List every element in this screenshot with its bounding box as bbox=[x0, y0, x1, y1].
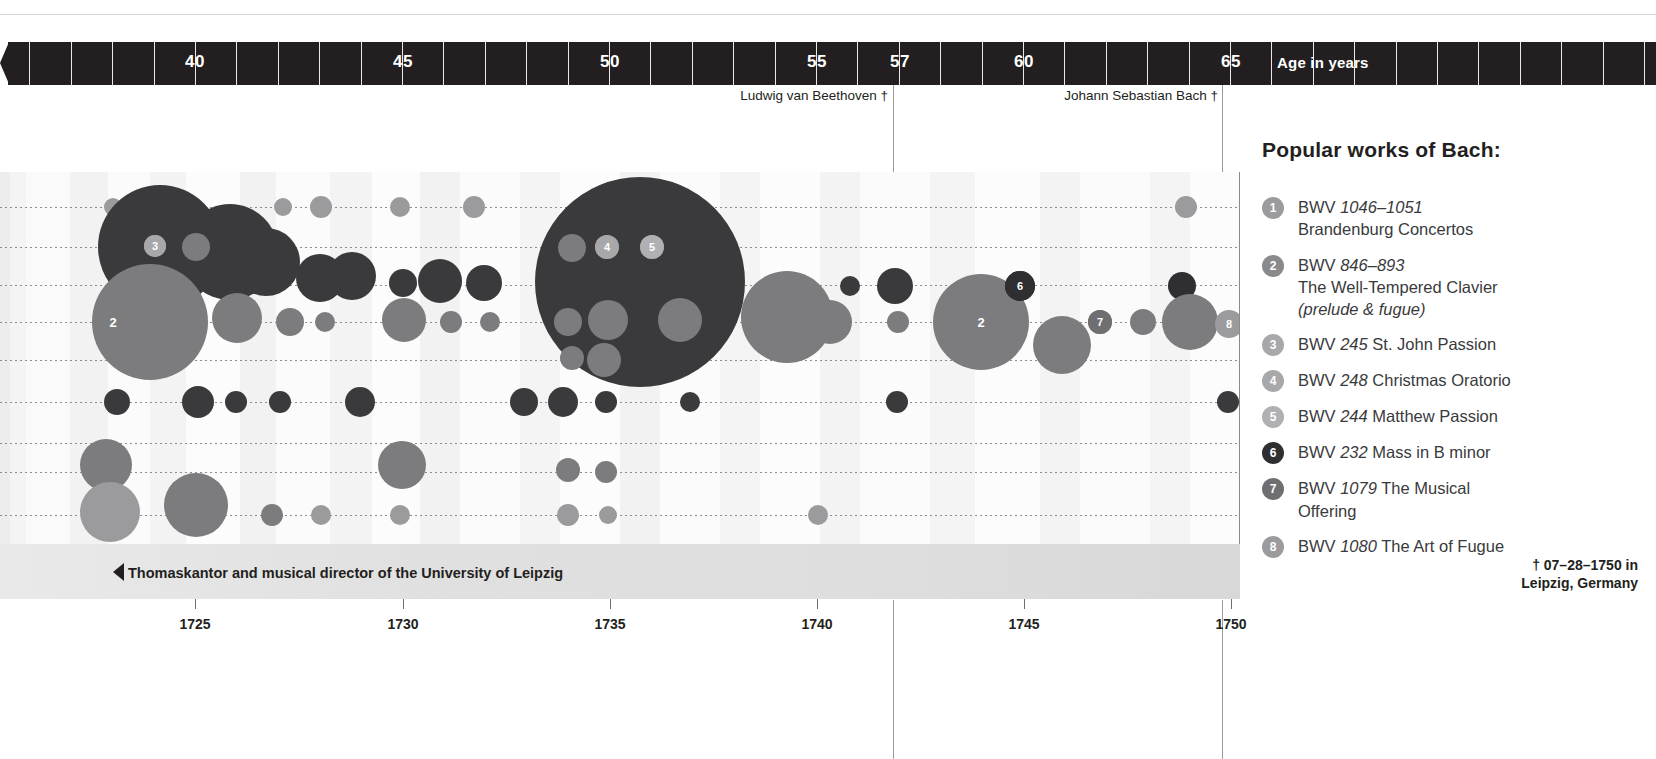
age-axis-tick bbox=[1271, 42, 1272, 85]
legend-item-text: BWV 244 Matthew Passion bbox=[1298, 405, 1498, 427]
work-bubble[interactable] bbox=[840, 276, 860, 296]
gridline bbox=[0, 443, 1240, 444]
plot-badge-5[interactable]: 5 bbox=[640, 235, 664, 259]
work-bubble[interactable] bbox=[808, 505, 828, 525]
work-bubble[interactable] bbox=[378, 441, 426, 489]
work-bubble[interactable] bbox=[560, 346, 584, 370]
legend-badge-4[interactable]: 4 bbox=[1262, 370, 1284, 392]
legend-item-2[interactable]: 2BWV 846–893The Well-Tempered Clavier(pr… bbox=[1262, 254, 1642, 321]
work-bubble[interactable] bbox=[599, 506, 617, 524]
legend-item-1[interactable]: 1BWV 1046–1051Brandenburg Concertos bbox=[1262, 196, 1642, 241]
plot-badge-3[interactable]: 3 bbox=[144, 235, 166, 257]
legend-badge-1[interactable]: 1 bbox=[1262, 197, 1284, 219]
year-axis-tick bbox=[403, 599, 404, 609]
plot-right-boundary bbox=[1239, 172, 1240, 600]
legend-item-text: BWV 248 Christmas Oratorio bbox=[1298, 369, 1511, 391]
legend-badge-3[interactable]: 3 bbox=[1262, 334, 1284, 356]
work-bubble[interactable] bbox=[558, 234, 586, 262]
age-axis-tick bbox=[29, 42, 30, 85]
work-bubble[interactable] bbox=[225, 391, 247, 413]
legend-item-3[interactable]: 3BWV 245 St. John Passion bbox=[1262, 333, 1642, 356]
work-bubble[interactable] bbox=[554, 308, 582, 336]
work-bubble[interactable] bbox=[658, 298, 702, 342]
work-bubble[interactable] bbox=[510, 388, 538, 416]
plot-badge-4[interactable]: 4 bbox=[595, 235, 619, 259]
work-bubble[interactable] bbox=[595, 391, 617, 413]
age-axis-tick bbox=[112, 42, 113, 85]
work-bubble[interactable] bbox=[466, 265, 502, 301]
work-bubble[interactable] bbox=[311, 505, 331, 525]
work-bubble[interactable] bbox=[345, 387, 375, 417]
age-axis-tick bbox=[568, 42, 569, 85]
bubble-inline-number: 2 bbox=[977, 315, 984, 330]
work-bubble[interactable] bbox=[182, 233, 210, 261]
age-axis-tick bbox=[278, 42, 279, 85]
work-bubble[interactable] bbox=[389, 269, 417, 297]
work-bubble[interactable] bbox=[1130, 309, 1156, 335]
work-bubble[interactable] bbox=[261, 504, 283, 526]
work-bubble[interactable] bbox=[557, 504, 579, 526]
age-axis-tick-label: 65 bbox=[1221, 52, 1241, 72]
career-band-label: Thomaskantor and musical director of the… bbox=[128, 565, 563, 581]
work-bubble[interactable] bbox=[1033, 316, 1091, 374]
plot-badge-8[interactable]: 8 bbox=[1215, 310, 1240, 338]
work-bubble[interactable] bbox=[595, 461, 617, 483]
work-bubble[interactable] bbox=[232, 228, 300, 296]
age-axis-tick bbox=[650, 42, 651, 85]
bubble-plot[interactable]: 22345678 bbox=[0, 172, 1240, 544]
plot-badge-7[interactable]: 7 bbox=[1088, 310, 1112, 334]
work-bubble[interactable] bbox=[274, 198, 292, 216]
work-bubble[interactable] bbox=[1217, 391, 1239, 413]
year-axis-tick bbox=[817, 599, 818, 609]
age-axis-tick bbox=[236, 42, 237, 85]
age-axis-tick bbox=[1147, 42, 1148, 85]
plot-badge-6[interactable]: 6 bbox=[1005, 271, 1035, 301]
legend-badge-7[interactable]: 7 bbox=[1262, 478, 1284, 500]
work-bubble[interactable] bbox=[556, 458, 580, 482]
age-axis-tick bbox=[485, 42, 486, 85]
work-bubble[interactable] bbox=[1162, 294, 1218, 350]
work-bubble[interactable] bbox=[328, 252, 376, 300]
legend-item-6[interactable]: 6BWV 232 Mass in B minor bbox=[1262, 441, 1642, 464]
work-bubble[interactable] bbox=[548, 387, 578, 417]
work-bubble[interactable] bbox=[80, 482, 140, 542]
legend-badge-8[interactable]: 8 bbox=[1262, 536, 1284, 558]
work-bubble[interactable] bbox=[877, 268, 913, 304]
work-bubble[interactable] bbox=[587, 343, 621, 377]
work-bubble[interactable] bbox=[440, 311, 462, 333]
work-bubble[interactable] bbox=[463, 196, 485, 218]
work-bubble[interactable] bbox=[104, 389, 130, 415]
year-axis-line bbox=[0, 599, 1240, 600]
legend-badge-2[interactable]: 2 bbox=[1262, 255, 1284, 277]
work-bubble[interactable] bbox=[212, 293, 262, 343]
work-bubble[interactable] bbox=[276, 308, 304, 336]
age-axis-tick-label: 57 bbox=[890, 52, 910, 72]
work-bubble[interactable] bbox=[315, 312, 335, 332]
legend-item-4[interactable]: 4BWV 248 Christmas Oratorio bbox=[1262, 369, 1642, 392]
work-bubble[interactable] bbox=[887, 311, 909, 333]
bubble-inline-number: 2 bbox=[109, 315, 116, 330]
work-bubble[interactable] bbox=[1175, 196, 1197, 218]
age-axis-tick bbox=[940, 42, 941, 85]
work-bubble[interactable] bbox=[310, 196, 332, 218]
work-bubble[interactable] bbox=[680, 392, 700, 412]
work-bubble[interactable] bbox=[390, 505, 410, 525]
work-bubble[interactable] bbox=[390, 197, 410, 217]
legend-badge-5[interactable]: 5 bbox=[1262, 406, 1284, 428]
age-axis-tick bbox=[1603, 42, 1604, 85]
work-bubble[interactable] bbox=[808, 300, 852, 344]
work-bubble[interactable] bbox=[269, 391, 291, 413]
work-bubble[interactable] bbox=[382, 298, 426, 342]
work-bubble[interactable] bbox=[480, 312, 500, 332]
work-bubble[interactable] bbox=[886, 391, 908, 413]
work-bubble[interactable] bbox=[164, 473, 228, 537]
legend-item-7[interactable]: 7BWV 1079 The MusicalOffering bbox=[1262, 477, 1642, 522]
legend-item-text: BWV 232 Mass in B minor bbox=[1298, 441, 1491, 463]
work-bubble[interactable] bbox=[588, 300, 628, 340]
legend-item-5[interactable]: 5BWV 244 Matthew Passion bbox=[1262, 405, 1642, 428]
legend-badge-6[interactable]: 6 bbox=[1262, 442, 1284, 464]
work-bubble[interactable] bbox=[182, 386, 214, 418]
work-bubble[interactable] bbox=[418, 259, 462, 303]
legend-item-8[interactable]: 8BWV 1080 The Art of Fugue bbox=[1262, 535, 1642, 558]
age-axis-tick bbox=[154, 42, 155, 85]
